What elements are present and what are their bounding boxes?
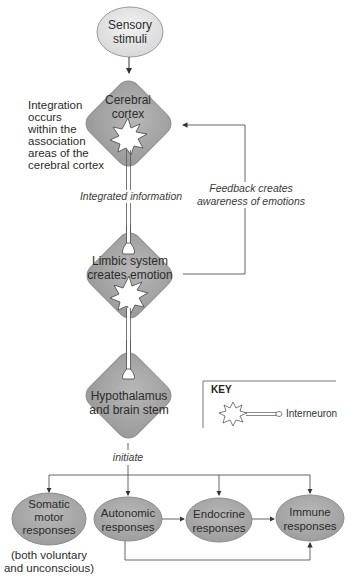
label-line: stimuli: [97, 32, 163, 46]
feedback-label: Feedback creates awareness of emotions: [192, 182, 310, 208]
integration-note: Integration occurs within the associatio…: [28, 99, 108, 171]
note-line: association: [28, 135, 108, 147]
label-line: Sensory: [97, 18, 163, 32]
label-line: Autonomic: [94, 506, 162, 520]
note-line: within the: [28, 123, 108, 135]
label-line: creates emotion: [84, 268, 176, 282]
note-line: occurs: [28, 111, 108, 123]
label-line: Hypothalamus: [82, 389, 176, 403]
sensory-stimuli-label: Sensory stimuli: [97, 18, 163, 46]
label-line: Immune: [276, 505, 344, 519]
label-line: awareness of emotions: [192, 195, 310, 208]
endocrine-label: Endocrine responses: [185, 507, 253, 535]
diagram-canvas: [0, 0, 355, 580]
label-line: motor: [12, 511, 86, 524]
integrated-information-label: Integrated information: [76, 190, 186, 203]
key-title: KEY: [211, 384, 232, 395]
label-line: responses: [12, 524, 86, 537]
hypothalamus-label: Hypothalamus and brain stem: [82, 389, 176, 417]
label-line: and brain stem: [82, 403, 176, 417]
autonomic-to-immune-arrow: [125, 541, 310, 560]
initiate-label: initiate: [104, 451, 152, 464]
label-line: Endocrine: [185, 507, 253, 521]
label-line: responses: [185, 521, 253, 535]
label-line: Feedback creates: [192, 182, 310, 195]
note-line: areas of the: [28, 147, 108, 159]
immune-label: Immune responses: [276, 505, 344, 533]
somatic-note: (both voluntary and unconscious): [2, 549, 96, 575]
label-line: responses: [276, 519, 344, 533]
note-line: Integration: [28, 99, 108, 111]
autonomic-label: Autonomic responses: [94, 506, 162, 534]
label-line: Somatic: [12, 498, 86, 511]
limbic-system-label: Limbic system creates emotion: [84, 254, 176, 282]
somatic-motor-label: Somatic motor responses: [12, 498, 86, 537]
key-interneuron-label: Interneuron: [286, 408, 337, 419]
key-axon-terminal-icon: [276, 412, 282, 417]
label-line: Limbic system: [84, 254, 176, 268]
note-line: cerebral cortex: [28, 159, 108, 171]
label-line: responses: [94, 520, 162, 534]
note-line: and unconscious): [2, 562, 96, 575]
note-line: (both voluntary: [2, 549, 96, 562]
key-neuron-soma-icon: [219, 402, 247, 426]
